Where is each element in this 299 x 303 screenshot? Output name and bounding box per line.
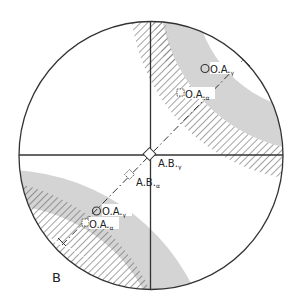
lower-oa-alpha-dashed-marker	[82, 219, 89, 226]
upper-oa-alpha-dashed-marker	[177, 89, 184, 96]
ab-alpha-dashed-marker	[125, 170, 135, 180]
ab-gamma-diamond-marker	[143, 148, 156, 161]
ab-gamma-label: A.B.γ	[158, 158, 182, 171]
stereographic-projection-diagram: A.B.γ A.B.α O.A.γ O.A.α O.A.γ O.A.α B	[0, 0, 299, 303]
ab-alpha-label: A.B.α	[136, 177, 160, 189]
panel-label: B	[52, 270, 61, 285]
